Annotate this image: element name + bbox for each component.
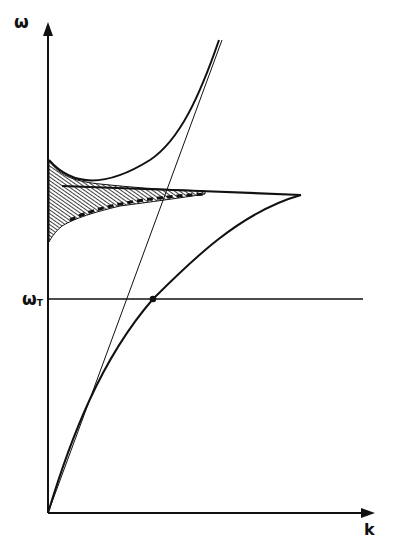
k-axis-arrow-icon (361, 508, 375, 518)
light-line (48, 40, 222, 513)
omega-axis-arrow-icon (43, 22, 53, 36)
intersection-point (150, 296, 157, 303)
k-axis-label: k (364, 520, 375, 539)
omega-t-symbol: ω (22, 289, 37, 309)
omega-axis-label: ω (14, 12, 29, 32)
dispersion-diagram (0, 0, 394, 557)
omega-t-label: ωT (22, 289, 43, 309)
omega-t-subscript: T (37, 298, 43, 308)
lower-polariton-branch (48, 195, 301, 513)
upper-polariton-branch (49, 40, 219, 181)
